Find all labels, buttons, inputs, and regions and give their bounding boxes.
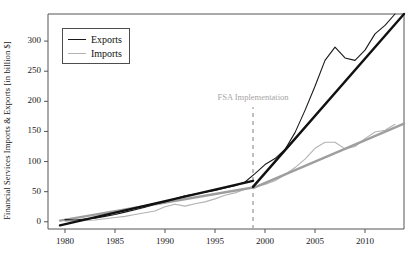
x-tick-label: 2005 (290, 236, 340, 246)
y-tick-label: 150 (28, 125, 42, 135)
y-tick-label: 0 (37, 216, 42, 226)
x-tick-label: 2010 (340, 236, 390, 246)
legend-label-imports: Imports (91, 48, 122, 59)
x-tick-label: 1985 (90, 236, 140, 246)
y-tick-label: 50 (32, 186, 41, 196)
y-tick-label: 300 (28, 35, 42, 45)
x-tick-label: 1995 (190, 236, 240, 246)
fsa-implementation-label: FSA Implementation (183, 92, 323, 102)
legend-swatch-exports (68, 39, 86, 40)
y-tick-label: 200 (28, 95, 42, 105)
x-tick-label: 1990 (140, 236, 190, 246)
legend-label-exports: Exports (91, 34, 122, 45)
y-tick-label: 250 (28, 65, 42, 75)
legend-item-imports: Imports (68, 46, 122, 60)
axis-ticks (44, 41, 365, 233)
x-tick-label: 2000 (240, 236, 290, 246)
chart-figure: Financial Services Imports & Exports [in… (0, 0, 414, 261)
y-tick-label: 100 (28, 156, 42, 166)
x-tick-label: 1980 (40, 236, 90, 246)
legend-item-exports: Exports (68, 32, 122, 46)
chart-legend: Exports Imports (62, 28, 130, 64)
legend-swatch-imports (68, 53, 86, 54)
